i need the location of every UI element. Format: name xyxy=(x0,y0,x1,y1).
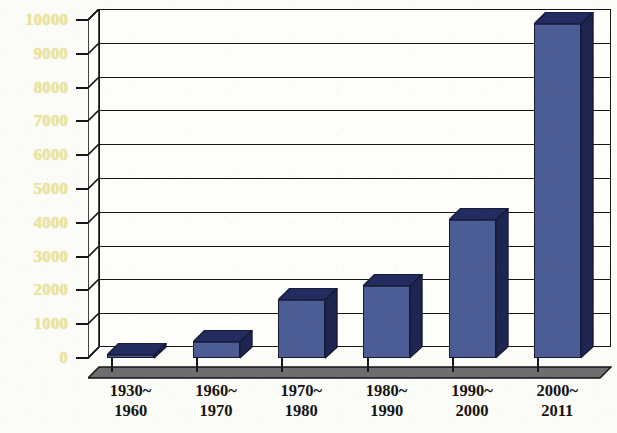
y-tick-label: 1000 xyxy=(34,314,68,334)
bar-front-face xyxy=(449,219,496,358)
y-axis: 1000090008000700060005000400030002000100… xyxy=(0,0,82,433)
bar-front-face xyxy=(363,285,410,358)
y-tick-label: 0 xyxy=(59,348,68,368)
x-tick-mark xyxy=(196,358,198,372)
x-label-line1: 1970~ xyxy=(281,381,323,400)
bar-top-face xyxy=(534,12,594,25)
y-tick-label: 7000 xyxy=(34,111,68,131)
x-tick-label: 1970~1980 xyxy=(259,381,344,421)
bar-top-face xyxy=(107,343,167,356)
bar xyxy=(193,330,240,358)
y-tick-label: 2000 xyxy=(34,280,68,300)
x-tick-label: 2000~2011 xyxy=(515,381,600,421)
y-tick-label: 10000 xyxy=(25,10,68,30)
x-tick-label: 1960~1970 xyxy=(173,381,258,421)
bar xyxy=(534,12,581,358)
x-label-line1: 1930~ xyxy=(110,381,152,400)
y-tick-label: 5000 xyxy=(34,179,68,199)
bar-top-face xyxy=(278,288,338,301)
x-tick-mark xyxy=(367,358,369,372)
x-tick-mark xyxy=(281,358,283,372)
x-label-line2: 1960 xyxy=(88,401,173,421)
y-tick-label: 4000 xyxy=(34,213,68,233)
x-axis-labels: 1930~19601960~19701970~19801980~19901990… xyxy=(88,381,600,433)
x-label-line2: 1970 xyxy=(173,401,258,421)
x-tick-label: 1930~1960 xyxy=(88,381,173,421)
bar xyxy=(363,274,410,358)
x-tick-label: 1980~1990 xyxy=(344,381,429,421)
bar-side-face xyxy=(581,12,594,358)
bar xyxy=(107,343,154,358)
x-label-line2: 2000 xyxy=(429,401,514,421)
x-label-line2: 1990 xyxy=(344,401,429,421)
chart-figure: 1000090008000700060005000400030002000100… xyxy=(0,0,617,433)
x-label-line1: 1980~ xyxy=(366,381,408,400)
x-tick-mark xyxy=(111,358,113,372)
x-label-line2: 2011 xyxy=(515,401,600,421)
y-tick-label: 8000 xyxy=(34,78,68,98)
x-tick-label: 1990~2000 xyxy=(429,381,514,421)
y-tick-label: 3000 xyxy=(34,247,68,267)
x-tick-mark xyxy=(452,358,454,372)
bar-side-face xyxy=(496,208,509,358)
bar-top-face xyxy=(363,274,423,287)
bar-series xyxy=(88,20,600,358)
x-label-line1: 1960~ xyxy=(195,381,237,400)
y-tick-label: 9000 xyxy=(34,44,68,64)
plot-area xyxy=(88,20,600,358)
bar-top-face xyxy=(193,330,253,343)
bar-top-face xyxy=(449,208,509,221)
x-label-line1: 2000~ xyxy=(537,381,579,400)
bar xyxy=(449,208,496,358)
x-tick-mark xyxy=(537,358,539,372)
bar-front-face xyxy=(278,299,325,358)
y-tick-label: 6000 xyxy=(34,145,68,165)
bar-front-face xyxy=(534,23,581,358)
bar-front-face xyxy=(193,341,240,358)
x-label-line1: 1990~ xyxy=(451,381,493,400)
x-label-line2: 1980 xyxy=(259,401,344,421)
bar xyxy=(278,288,325,358)
gridline xyxy=(99,9,611,10)
